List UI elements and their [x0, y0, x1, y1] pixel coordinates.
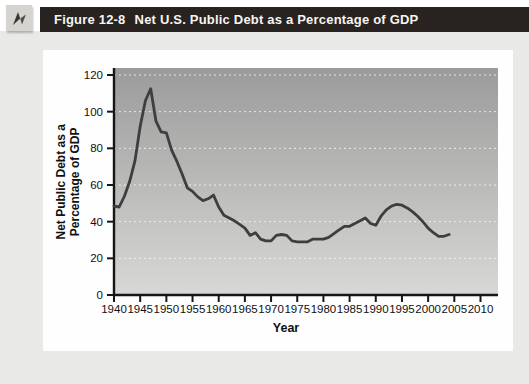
textbook-figure: Figure 12-8 Net U.S. Public Debt as a Pe… [0, 0, 529, 384]
x-tick-label: 2005 [442, 303, 468, 315]
y-tick-label: 20 [90, 252, 103, 264]
y-axis-title-line2: Percentage of GDP [69, 57, 83, 307]
x-tick-label: 1945 [127, 303, 153, 315]
y-tick-label: 100 [84, 106, 103, 118]
x-tick-label: 1995 [389, 303, 415, 315]
x-tick-label: 1980 [311, 303, 337, 315]
x-axis-title: Year [226, 321, 346, 335]
x-tick-label: 1950 [154, 303, 180, 315]
x-tick-label: 1965 [232, 303, 258, 315]
y-tick-label: 80 [90, 142, 103, 154]
y-tick-label: 60 [90, 179, 103, 191]
x-tick-label: 1985 [337, 303, 363, 315]
x-tick-label: 2000 [415, 303, 441, 315]
y-axis-title: Net Public Debt as a Percentage of GDP [55, 57, 83, 307]
y-tick-label: 120 [84, 69, 103, 81]
y-tick-label: 0 [97, 289, 103, 301]
plot-area [114, 68, 498, 295]
y-tick-label: 40 [90, 216, 103, 228]
x-tick-label: 1940 [101, 303, 127, 315]
x-tick-label: 1990 [363, 303, 389, 315]
x-tick-label: 2010 [468, 303, 494, 315]
x-tick-label: 1970 [258, 303, 284, 315]
x-tick-label: 1960 [206, 303, 232, 315]
x-tick-label: 1975 [284, 303, 310, 315]
x-tick-label: 1955 [180, 303, 206, 315]
y-axis-title-line1: Net Public Debt as a [55, 57, 69, 307]
